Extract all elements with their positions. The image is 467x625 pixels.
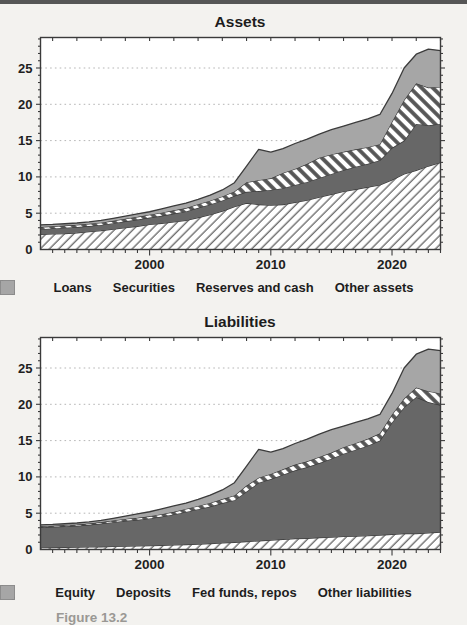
- legend-item: Equity: [55, 585, 95, 600]
- x-tick-label: 2010: [256, 557, 286, 572]
- legend-item: Other liabilities: [318, 585, 412, 600]
- legend-item: Fed funds, repos: [192, 585, 297, 600]
- legend-item: Deposits: [116, 585, 171, 600]
- legend-label: Securities: [113, 280, 175, 295]
- legend-label: Reserves and cash: [196, 280, 314, 295]
- legend-swatch-solid-gray-icon: [0, 585, 15, 600]
- x-tick-label: 2020: [377, 557, 407, 572]
- assets-chart: 0510152025200020102020 Assets: [0, 0, 467, 300]
- legend-label: Deposits: [116, 585, 171, 600]
- assets-plot: 0510152025200020102020: [18, 38, 445, 272]
- y-tick-label: 0: [25, 242, 32, 257]
- legend-item: Reserves and cash: [196, 280, 314, 295]
- y-tick-label: 15: [18, 133, 32, 148]
- figure-caption: Figure 13.2: [56, 610, 127, 625]
- legend-label: Other assets: [335, 280, 414, 295]
- liabilities-chart: 0510152025200020102020 Liabilities: [0, 300, 467, 585]
- y-tick-label: 25: [18, 61, 32, 76]
- y-tick-label: 20: [18, 397, 32, 412]
- x-tick-label: 2000: [135, 557, 165, 572]
- legend-item: Other assets: [335, 280, 414, 295]
- y-tick-label: 10: [18, 169, 32, 184]
- y-tick-label: 25: [18, 361, 32, 376]
- y-tick-label: 5: [25, 206, 32, 221]
- legend-item: Loans: [53, 280, 91, 295]
- assets-chart-title: Assets: [215, 13, 266, 30]
- legend-label: Loans: [53, 280, 91, 295]
- assets-legend: LoansSecuritiesReserves and cashOther as…: [0, 280, 467, 295]
- y-tick-label: 20: [18, 97, 32, 112]
- legend-label: Other liabilities: [318, 585, 412, 600]
- liabilities-legend: EquityDepositsFed funds, reposOther liab…: [0, 585, 467, 600]
- legend-label: Fed funds, repos: [192, 585, 297, 600]
- y-tick-label: 10: [18, 469, 32, 484]
- liabilities-chart-title: Liabilities: [204, 313, 276, 330]
- y-tick-label: 5: [25, 506, 32, 521]
- y-tick-label: 15: [18, 433, 32, 448]
- legend-swatch-solid-gray-icon: [0, 280, 15, 295]
- x-tick-label: 2020: [377, 257, 407, 272]
- legend-label: Equity: [55, 585, 95, 600]
- x-tick-label: 2010: [256, 257, 286, 272]
- x-tick-label: 2000: [135, 257, 165, 272]
- legend-item: Securities: [113, 280, 175, 295]
- liabilities-plot: 0510152025200020102020: [18, 338, 445, 572]
- y-tick-label: 0: [25, 542, 32, 557]
